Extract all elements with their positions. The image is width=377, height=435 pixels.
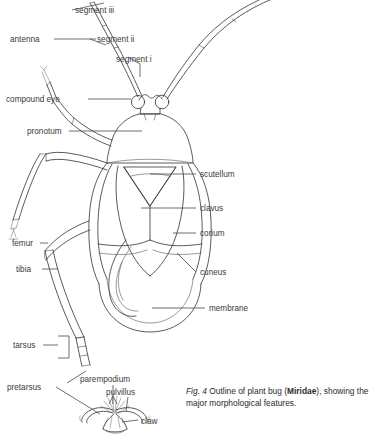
membrane [99, 240, 201, 332]
compound-eye-right [155, 95, 169, 109]
label-antenna: antenna [10, 35, 40, 44]
anatomy-illustration: segment iii antenna segment ii segment i… [0, 0, 377, 435]
caption-taxon-name: Miridae [287, 386, 316, 396]
antenna-left [90, 2, 142, 97]
forewing-right [150, 163, 211, 284]
leader-lines [40, 3, 205, 422]
label-group: segment iii antenna segment ii segment i… [6, 6, 249, 426]
leader-cuneus [177, 253, 196, 272]
label-segment-iii: segment iii [75, 6, 114, 15]
bracket-tarsus [58, 336, 69, 358]
label-segment-i: segment i [116, 55, 152, 64]
label-scutellum: scutellum [200, 170, 235, 179]
caption-text-1: Outline of plant bug ( [207, 386, 287, 396]
label-parempodium: parempodium [80, 375, 130, 384]
pretarsus-detail [80, 396, 150, 433]
tarsus [76, 337, 90, 366]
leader-claw [122, 420, 138, 422]
label-cuneus: cuneus [200, 268, 226, 277]
head [131, 95, 168, 120]
label-segment-ii: segment ii [97, 35, 134, 44]
antenna-right [163, 0, 272, 99]
label-pronotum: pronotum [27, 127, 62, 136]
hindleg [44, 221, 90, 338]
label-claw: claw [141, 417, 157, 426]
label-clavus: clavus [200, 204, 223, 213]
label-compound-eye: compound eye [6, 95, 60, 104]
leader-pulvillus [126, 397, 128, 411]
caption-figure-number: Fig. 4 [186, 386, 207, 396]
label-membrane: membrane [209, 304, 249, 313]
leader-pretarsus-long [56, 387, 100, 414]
label-femur: femur [12, 239, 33, 248]
label-pulvillus: pulvillus [106, 388, 135, 397]
scutellum [124, 167, 176, 206]
pronotum [107, 114, 193, 163]
label-tibia: tibia [16, 265, 31, 274]
label-corium: corium [200, 229, 225, 238]
figure-plant-bug-morphology: segment iii antenna segment ii segment i… [0, 0, 377, 435]
figure-caption: Fig. 4 Outline of plant bug (Miridae), s… [186, 386, 372, 409]
label-tarsus: tarsus [13, 341, 35, 350]
label-pretarsus: pretarsus [7, 383, 41, 392]
forewing-left [89, 163, 150, 284]
